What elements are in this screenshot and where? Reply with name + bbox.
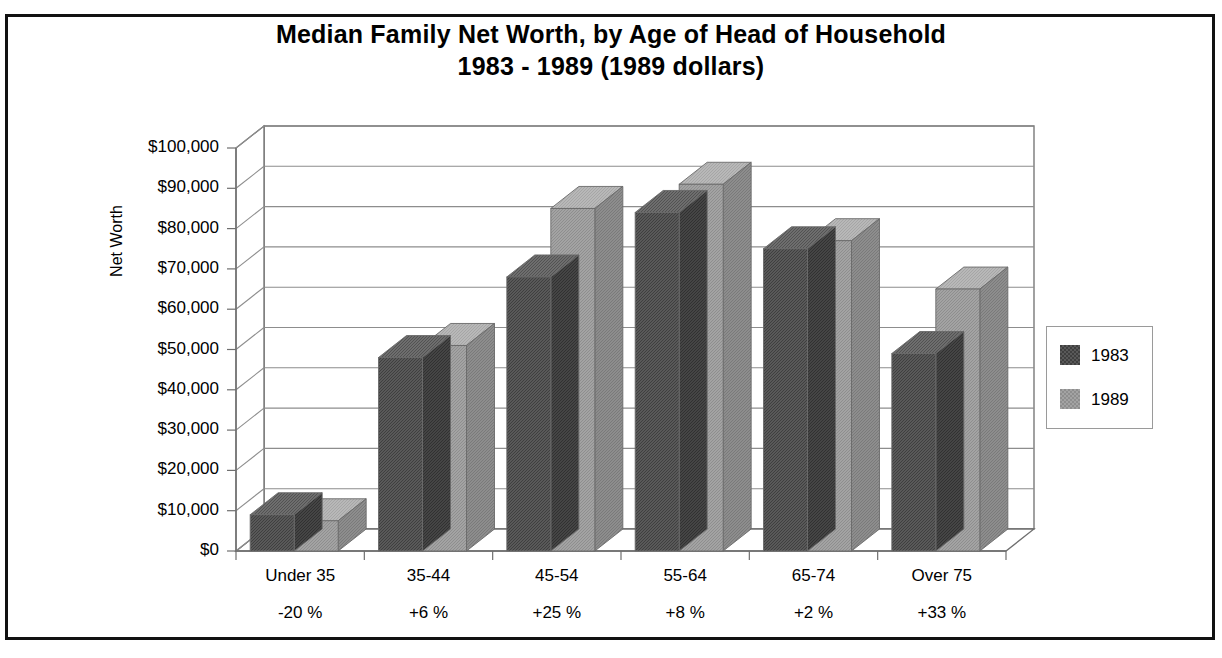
chart-legend: 1983 1989 [1046, 326, 1153, 429]
y-axis-tick-label: $50,000 [99, 339, 219, 359]
x-axis-change-label: +33 % [867, 603, 1017, 623]
y-axis-tick-label: $20,000 [99, 459, 219, 479]
y-axis-tick-label: $70,000 [99, 258, 219, 278]
y-axis-tick-label: $100,000 [99, 137, 219, 157]
legend-swatch-1989 [1060, 389, 1080, 409]
y-axis-tick-label: $30,000 [99, 419, 219, 439]
y-axis-tick-label: $0 [99, 540, 219, 560]
legend-swatch-1983 [1060, 345, 1080, 365]
legend-item-1983[interactable]: 1983 [1060, 345, 1129, 365]
legend-label-1983: 1983 [1091, 347, 1129, 364]
y-axis-tick-label: $90,000 [99, 177, 219, 197]
x-axis-tick-label: Over 75 [867, 566, 1017, 586]
y-axis-tick-label: $10,000 [99, 500, 219, 520]
y-axis-tick-label: $80,000 [99, 218, 219, 238]
legend-label-1989: 1989 [1091, 391, 1129, 408]
y-axis-tick-label: $60,000 [99, 298, 219, 318]
y-axis-tick-label: $40,000 [99, 379, 219, 399]
legend-item-1989[interactable]: 1989 [1060, 389, 1129, 409]
